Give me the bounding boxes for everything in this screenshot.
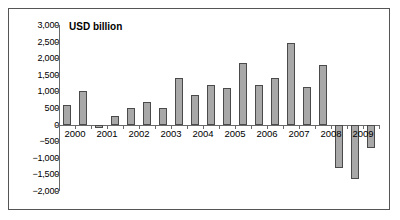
x-tick-mark: [379, 125, 380, 129]
bar: [223, 88, 231, 124]
bar: [319, 65, 327, 124]
x-tick-label: 2004: [192, 128, 213, 139]
bar: [111, 116, 119, 125]
chart-title: USD billion: [69, 21, 122, 32]
chart-plot-area: 3,0002,5002,0001,5001,0005000−500−1,000−…: [9, 9, 389, 209]
x-tick-label: 2000: [64, 128, 85, 139]
bar: [287, 43, 295, 124]
bar: [79, 91, 87, 124]
x-tick-label: 2001: [96, 128, 117, 139]
bar: [255, 85, 263, 125]
x-tick-mark: [155, 125, 156, 129]
x-tick-mark: [347, 125, 348, 129]
x-tick-label: 2005: [224, 128, 245, 139]
x-tick-label: 2008: [320, 128, 341, 139]
bar: [127, 108, 135, 125]
chart-frame: 3,0002,5002,0001,5001,0005000−500−1,000−…: [8, 8, 390, 210]
x-tick-label: 2009: [352, 128, 373, 139]
bar: [239, 63, 247, 124]
x-tick-mark: [315, 125, 316, 129]
bar: [271, 78, 279, 124]
bar: [207, 85, 215, 125]
y-axis-line: [59, 25, 60, 191]
x-tick-label: 2002: [128, 128, 149, 139]
bar: [63, 105, 71, 125]
bar: [175, 78, 183, 124]
x-tick-mark: [219, 125, 220, 129]
bar: [159, 108, 167, 125]
x-tick-mark: [251, 125, 252, 129]
bar: [191, 95, 199, 125]
x-tick-label: 2006: [256, 128, 277, 139]
x-tick-mark: [123, 125, 124, 129]
bar: [303, 87, 311, 125]
x-tick-label: 2003: [160, 128, 181, 139]
x-tick-label: 2007: [288, 128, 309, 139]
x-tick-mark: [283, 125, 284, 129]
x-tick-mark: [187, 125, 188, 129]
x-tick-mark: [91, 125, 92, 129]
y-tick-mark: [55, 191, 59, 192]
bar: [143, 102, 151, 125]
y-axis-labels: 3,0002,5002,0001,5001,0005000−500−1,000−…: [13, 9, 59, 209]
